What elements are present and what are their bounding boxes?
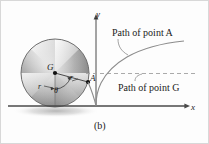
radius-label-lower: r — [38, 83, 41, 91]
path-of-g-leader — [135, 74, 142, 81]
path-of-point-a-label: Path of point A — [112, 28, 173, 38]
y-axis-label: y — [96, 10, 100, 19]
figure-caption: (b) — [94, 121, 106, 131]
radius-label-upper: r — [70, 74, 73, 82]
angle-theta-label: θ — [54, 87, 58, 95]
point-a-label: A — [90, 74, 96, 83]
path-of-a-cusp — [88, 82, 96, 106]
path-of-a-leader — [118, 39, 128, 55]
path-of-point-g-label: Path of point G — [118, 83, 179, 93]
point-g-label: G — [47, 63, 54, 72]
x-axis-label: x — [191, 103, 195, 112]
figure-container: Path of point A Path of point G y x G A … — [0, 0, 209, 144]
x-axis-arrowhead — [184, 104, 190, 109]
